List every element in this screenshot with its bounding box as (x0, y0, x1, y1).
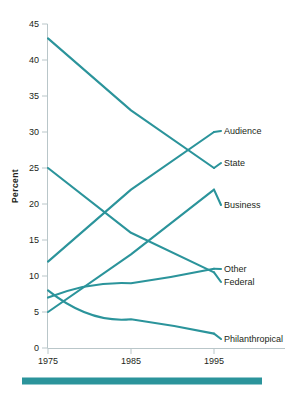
y-tick-label-0: 0 (34, 343, 39, 353)
series-label-state: State (224, 158, 245, 168)
leader-line-business (214, 190, 221, 205)
series-label-other: Other (224, 264, 247, 274)
series-label-business: Business (224, 200, 261, 210)
y-axis-title: Percent (10, 169, 20, 203)
y-tick-label-5: 5 (34, 307, 39, 317)
chart-container: 45 40 35 30 25 20 15 10 5 0 Percent 1975… (0, 0, 295, 395)
series-label-federal: Federal (224, 277, 255, 287)
x-axis: 1975 1985 1995 (38, 348, 285, 366)
y-tick-label-10: 10 (29, 271, 39, 281)
series-line-federal (48, 168, 214, 272)
series-label-audience: Audience (224, 126, 262, 136)
y-tick-label-30: 30 (29, 127, 39, 137)
y-tick-label-35: 35 (29, 91, 39, 101)
series-leader-lines (214, 131, 221, 339)
series-label-philanthropical: Philanthropical (224, 334, 283, 344)
y-tick-label-20: 20 (29, 199, 39, 209)
line-chart-plot: 45 40 35 30 25 20 15 10 5 0 Percent 1975… (0, 0, 295, 395)
y-tick-label-25: 25 (29, 163, 39, 173)
y-tick-label-40: 40 (29, 55, 39, 65)
leader-line-philanthropical (214, 334, 221, 339)
series-line-philanthropical (48, 290, 214, 333)
x-tick-label-1975: 1975 (38, 356, 58, 366)
leader-line-audience (214, 131, 221, 132)
series-line-other (48, 269, 214, 298)
y-tick-label-15: 15 (29, 235, 39, 245)
y-axis: 45 40 35 30 25 20 15 10 5 0 Percent (10, 19, 48, 353)
series-line-business (48, 190, 214, 312)
x-tick-label-1985: 1985 (121, 356, 141, 366)
leader-line-federal (214, 272, 221, 282)
x-tick-label-1995: 1995 (204, 356, 224, 366)
y-tick-label-45: 45 (29, 19, 39, 29)
series-lines-group (48, 38, 214, 333)
leader-line-state (214, 163, 221, 168)
